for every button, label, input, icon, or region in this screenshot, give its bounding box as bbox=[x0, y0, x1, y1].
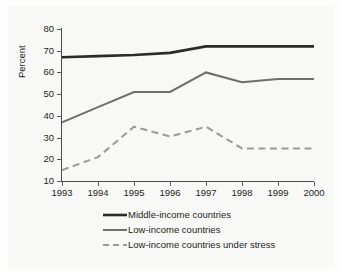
x-tick-mark bbox=[98, 182, 99, 186]
legend-line-swatch bbox=[103, 210, 127, 220]
x-tick-label: 1999 bbox=[258, 188, 298, 198]
y-tick-mark bbox=[57, 116, 61, 117]
chart-figure: Percent 1020304050607080 199319941995199… bbox=[0, 0, 341, 273]
x-tick-label: 1996 bbox=[150, 188, 190, 198]
x-tick-mark bbox=[62, 182, 63, 186]
y-tick-label: 10 bbox=[14, 176, 54, 186]
legend-label: Middle-income countries bbox=[127, 210, 231, 220]
x-tick-label: 1998 bbox=[222, 188, 262, 198]
series-line-2 bbox=[62, 72, 314, 122]
x-tick-label: 2000 bbox=[294, 188, 334, 198]
series-lines bbox=[62, 29, 314, 181]
series-line-1 bbox=[62, 46, 314, 57]
legend-item: Low-income countries under stress bbox=[103, 237, 275, 252]
y-tick-mark bbox=[57, 51, 61, 52]
y-tick-label: 70 bbox=[14, 46, 54, 56]
legend-line-swatch bbox=[103, 225, 127, 235]
x-tick-label: 1995 bbox=[114, 188, 154, 198]
x-tick-label: 1997 bbox=[186, 188, 226, 198]
series-line-3 bbox=[62, 127, 314, 170]
y-tick-mark bbox=[57, 181, 61, 182]
y-tick-label: 80 bbox=[14, 24, 54, 34]
y-tick-mark bbox=[57, 94, 61, 95]
chart-legend: Middle-income countriesLow-income countr… bbox=[103, 207, 275, 252]
x-tick-mark bbox=[170, 182, 171, 186]
x-tick-mark bbox=[278, 182, 279, 186]
y-tick-mark bbox=[57, 159, 61, 160]
x-tick-mark bbox=[242, 182, 243, 186]
x-tick-label: 1993 bbox=[42, 188, 82, 198]
legend-label: Low-income countries bbox=[127, 225, 220, 235]
plot-area bbox=[62, 29, 314, 181]
y-tick-mark bbox=[57, 138, 61, 139]
y-tick-label: 50 bbox=[14, 89, 54, 99]
y-tick-label: 60 bbox=[14, 67, 54, 77]
legend-label: Low-income countries under stress bbox=[127, 240, 275, 250]
legend-item: Low-income countries bbox=[103, 222, 275, 237]
y-tick-mark bbox=[57, 29, 61, 30]
x-tick-mark bbox=[314, 182, 315, 186]
y-tick-mark bbox=[57, 72, 61, 73]
y-tick-label: 40 bbox=[14, 111, 54, 121]
x-tick-mark bbox=[206, 182, 207, 186]
y-tick-label: 20 bbox=[14, 154, 54, 164]
x-tick-label: 1994 bbox=[78, 188, 118, 198]
legend-line-swatch bbox=[103, 240, 127, 250]
y-tick-label: 30 bbox=[14, 133, 54, 143]
legend-item: Middle-income countries bbox=[103, 207, 275, 222]
x-tick-mark bbox=[134, 182, 135, 186]
